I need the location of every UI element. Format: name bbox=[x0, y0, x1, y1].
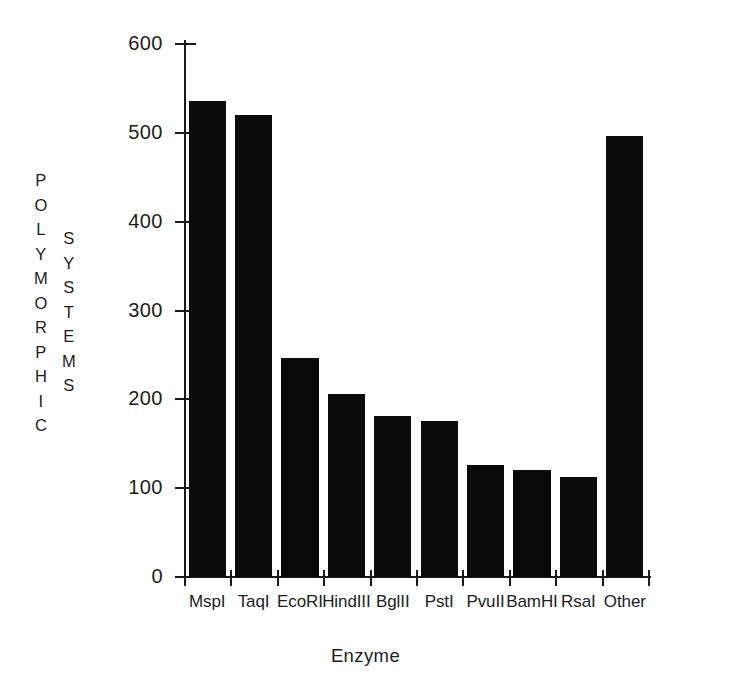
bar bbox=[606, 136, 643, 578]
x-axis-tick bbox=[370, 570, 372, 586]
y-axis-tick-label-text: 100 bbox=[99, 477, 163, 497]
y-axis-title-letter: Y bbox=[63, 251, 74, 276]
bar bbox=[374, 416, 411, 577]
y-axis-title-letter: I bbox=[39, 389, 44, 414]
y-axis-title-letter: S bbox=[63, 226, 74, 251]
y-axis-tick-label-text: 600 bbox=[99, 33, 163, 53]
y-axis-title-letter: M bbox=[34, 266, 48, 291]
y-axis-tick-label: 500 bbox=[99, 122, 163, 142]
bar bbox=[467, 465, 504, 577]
y-axis-title-letter: L bbox=[36, 217, 45, 242]
x-axis-tick bbox=[602, 570, 604, 586]
y-axis-title-letter: P bbox=[35, 340, 46, 365]
y-axis-title-letter: R bbox=[35, 315, 47, 340]
y-axis-title-letter: H bbox=[35, 364, 47, 389]
bar bbox=[235, 115, 272, 577]
y-axis-tick-label: 300 bbox=[99, 300, 163, 320]
bar bbox=[560, 477, 597, 577]
y-axis-title-column-systems: SYSTEMS bbox=[62, 226, 76, 398]
y-axis-tick-label-text: 400 bbox=[99, 211, 163, 231]
y-axis-title-letter: Y bbox=[35, 242, 46, 267]
x-axis-tick bbox=[416, 570, 418, 586]
y-axis-title-letter: M bbox=[62, 349, 76, 374]
y-axis-tick-label: 400 bbox=[99, 211, 163, 231]
x-axis-tick bbox=[509, 570, 511, 586]
y-axis-tick-label: 100 bbox=[99, 477, 163, 497]
y-axis-title-letter: P bbox=[35, 168, 46, 193]
y-axis-title-letter: T bbox=[64, 300, 74, 325]
y-axis-title: POLYMORPHIC SYSTEMS bbox=[34, 168, 76, 438]
y-axis-tick-label: 200 bbox=[99, 388, 163, 408]
bar bbox=[189, 101, 226, 577]
y-axis-title-letter: O bbox=[34, 291, 47, 316]
y-axis-title-column-polymorphic: POLYMORPHIC bbox=[34, 168, 48, 438]
y-axis-tick-label-text: 500 bbox=[99, 122, 163, 142]
x-axis-tick-label: Other bbox=[585, 592, 665, 612]
x-axis-tick bbox=[323, 570, 325, 586]
y-axis-title-letter: S bbox=[63, 373, 74, 398]
y-axis-title-letter: C bbox=[35, 413, 47, 438]
y-axis-tick-label-text: 300 bbox=[99, 300, 163, 320]
x-axis-tick bbox=[555, 570, 557, 586]
y-axis-tick-label: 0 bbox=[99, 566, 163, 586]
bar-chart-figure: POLYMORPHIC SYSTEMS 0100200300400500600 … bbox=[0, 0, 731, 696]
bar bbox=[328, 394, 365, 577]
y-axis-title-letter: E bbox=[63, 324, 74, 349]
plot-area bbox=[184, 44, 646, 577]
y-axis-tick-label: 600 bbox=[99, 33, 163, 53]
x-axis-tick bbox=[184, 570, 186, 586]
y-axis-tick-label-text: 0 bbox=[99, 566, 163, 586]
y-axis-title-letter: S bbox=[63, 275, 74, 300]
x-axis-tick bbox=[462, 570, 464, 586]
x-axis-tick bbox=[648, 570, 650, 586]
x-axis-title: Enzyme bbox=[0, 645, 731, 667]
x-axis-tick bbox=[230, 570, 232, 586]
bar bbox=[513, 470, 550, 577]
x-axis-tick bbox=[277, 570, 279, 586]
y-axis-title-letter: O bbox=[34, 193, 47, 218]
bar bbox=[281, 358, 318, 577]
y-axis-tick-label-text: 200 bbox=[99, 388, 163, 408]
bar bbox=[421, 421, 458, 577]
